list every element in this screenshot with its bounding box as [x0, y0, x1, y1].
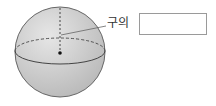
answer-input-box[interactable]: [139, 13, 207, 35]
center-dot: [58, 51, 62, 55]
sphere-label: 구의: [107, 16, 129, 30]
